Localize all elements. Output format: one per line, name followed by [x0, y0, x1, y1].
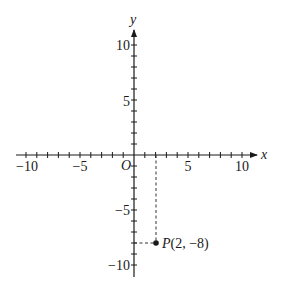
- y-tick-label-neg10: −10: [108, 258, 130, 273]
- point-p-marker: [153, 240, 159, 246]
- y-tick-label-10: 10: [116, 38, 130, 53]
- x-tick-label-5: 5: [185, 159, 192, 174]
- x-tick-label-neg5: −5: [73, 159, 88, 174]
- x-tick-label-10: 10: [235, 159, 249, 174]
- point-p-label: P(2, −8): [161, 236, 209, 252]
- y-tick-label-5: 5: [123, 94, 130, 109]
- point-p-name: P: [161, 236, 171, 251]
- y-tick-label-neg5: −5: [115, 203, 130, 218]
- x-axis-label: x: [260, 147, 268, 162]
- point-p-coords: (2, −8): [171, 236, 210, 252]
- origin-label: O: [121, 158, 131, 173]
- coordinate-plane: x y O −10 −5 5 10 10 5 −5 −10 P(2, −8): [0, 0, 281, 289]
- y-axis-label: y: [128, 12, 137, 27]
- x-tick-label-neg10: −10: [16, 159, 38, 174]
